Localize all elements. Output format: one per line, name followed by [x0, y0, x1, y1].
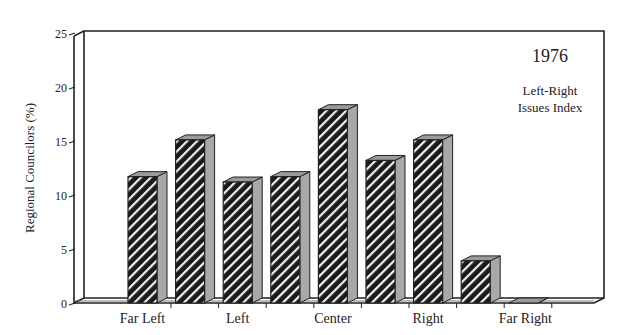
bar — [223, 177, 262, 303]
x-tick-label: Center — [314, 311, 352, 326]
svg-text:5: 5 — [61, 243, 67, 257]
x-tick-label: Far Left — [120, 311, 166, 326]
bar-series — [128, 105, 548, 303]
svg-text:15: 15 — [55, 135, 67, 149]
svg-text:20: 20 — [55, 81, 67, 95]
bar — [461, 256, 500, 303]
chart-title-year: 1976 — [500, 46, 600, 67]
bar — [414, 135, 453, 303]
svg-text:0: 0 — [61, 297, 67, 311]
subtitle-line-2: Issues Index — [500, 99, 600, 116]
subtitle-line-1: Left-Right — [500, 82, 600, 99]
bar — [318, 105, 357, 303]
x-tick-label: Left — [226, 311, 249, 326]
y-axis-label: Regional Councilors (%) — [22, 103, 38, 233]
bar — [128, 172, 167, 303]
bar — [366, 155, 405, 303]
svg-text:10: 10 — [55, 189, 67, 203]
x-tick-label: Far Right — [499, 311, 552, 326]
bar — [271, 172, 310, 303]
chart-subtitle: Left-Right Issues Index — [500, 82, 600, 116]
x-axis-labels: Far LeftLeftCenterRightFar Right — [120, 311, 552, 326]
svg-text:25: 25 — [55, 27, 67, 41]
bar — [176, 135, 215, 303]
x-tick-label: Right — [413, 311, 444, 326]
